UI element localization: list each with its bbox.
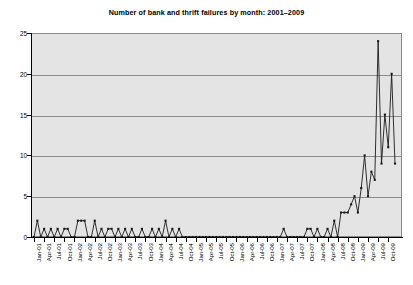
x-tick-label-Jul-03: Jul-03 — [137, 243, 143, 260]
x-tick-label-Apr-09: Apr-09 — [370, 243, 376, 261]
data-point-marker — [100, 228, 102, 230]
data-point-marker — [158, 228, 160, 230]
data-point-marker — [165, 220, 167, 222]
data-point-marker — [299, 236, 301, 237]
x-tick-label-Oct-01: Oct-01 — [67, 243, 73, 261]
x-tick-mark — [135, 238, 136, 242]
x-tick-mark — [297, 238, 298, 242]
chart-title: Number of bank and thrift failures by mo… — [0, 8, 413, 17]
data-point-marker — [391, 73, 393, 75]
x-tick-mark — [95, 238, 96, 242]
series-path — [34, 41, 395, 237]
data-point-marker — [192, 236, 194, 237]
x-tick-label-Jan-09: Jan-09 — [360, 243, 366, 262]
data-point-marker — [232, 236, 234, 237]
data-point-marker — [364, 154, 366, 156]
x-tick-label-Jan-06: Jan-06 — [239, 243, 245, 262]
data-point-marker — [104, 236, 106, 237]
x-tick-mark — [34, 238, 35, 242]
x-tick-mark — [328, 238, 329, 242]
x-axis-labels: Jan-01Apr-01Jul-01Oct-01Jan-02Apr-02Jul-… — [31, 243, 403, 285]
data-point-marker — [333, 220, 335, 222]
data-point-marker — [394, 163, 396, 165]
data-point-marker — [252, 236, 254, 237]
data-point-marker — [225, 236, 227, 237]
x-tick-label-Jan-04: Jan-04 — [158, 243, 164, 262]
data-point-marker — [70, 236, 72, 237]
x-tick-label-Jan-07: Jan-07 — [279, 243, 285, 262]
x-tick-label-Oct-08: Oct-08 — [350, 243, 356, 261]
x-tick-mark — [44, 238, 45, 242]
data-point-marker — [256, 236, 258, 237]
x-tick-mark — [247, 238, 248, 242]
data-point-marker — [40, 236, 42, 237]
data-point-marker — [124, 228, 126, 230]
x-tick-label-Jul-04: Jul-04 — [178, 243, 184, 260]
x-tick-mark — [358, 238, 359, 242]
data-point-marker — [97, 236, 99, 237]
x-tick-label-Oct-05: Oct-05 — [229, 243, 235, 261]
data-point-marker — [310, 228, 312, 230]
data-point-marker — [262, 236, 264, 237]
x-tick-mark — [338, 238, 339, 242]
data-point-marker — [266, 236, 268, 237]
data-point-marker — [77, 220, 79, 222]
y-tick-label-15: 15 — [20, 111, 27, 118]
x-tick-label-Jan-05: Jan-05 — [198, 243, 204, 262]
data-point-marker — [316, 228, 318, 230]
x-tick-label-Jul-01: Jul-01 — [56, 243, 62, 260]
x-tick-label-Apr-05: Apr-05 — [208, 243, 214, 261]
data-point-marker — [279, 236, 281, 237]
data-point-marker — [380, 163, 382, 165]
x-tick-label-Apr-03: Apr-03 — [127, 243, 133, 261]
x-tick-mark — [317, 238, 318, 242]
x-tick-mark — [378, 238, 379, 242]
x-tick-label-Apr-07: Apr-07 — [289, 243, 295, 261]
data-point-marker — [154, 236, 156, 237]
data-point-marker — [340, 211, 342, 213]
y-tick-label-10: 10 — [20, 152, 27, 159]
x-tick-label-Apr-04: Apr-04 — [168, 243, 174, 261]
data-point-marker — [50, 228, 52, 230]
data-point-marker — [367, 195, 369, 197]
data-point-marker — [337, 236, 339, 237]
data-point-marker — [219, 236, 221, 237]
x-tick-mark — [388, 238, 389, 242]
x-tick-label-Apr-01: Apr-01 — [46, 243, 52, 261]
data-point-marker — [117, 228, 119, 230]
x-tick-mark — [348, 238, 349, 242]
data-point-marker — [84, 220, 86, 222]
x-tick-label-Oct-02: Oct-02 — [107, 243, 113, 261]
data-point-marker — [303, 236, 305, 237]
data-point-marker — [53, 236, 55, 237]
data-point-marker — [151, 228, 153, 230]
data-point-marker — [323, 236, 325, 237]
data-point-marker — [185, 236, 187, 237]
data-point-marker — [374, 179, 376, 181]
data-point-marker — [360, 187, 362, 189]
data-point-marker — [377, 40, 379, 42]
data-point-marker — [80, 220, 82, 222]
data-point-marker — [178, 228, 180, 230]
data-point-marker — [313, 236, 315, 237]
data-series-line — [31, 33, 402, 237]
data-point-marker — [33, 236, 35, 237]
data-point-marker — [138, 236, 140, 237]
data-point-marker — [208, 236, 210, 237]
x-tick-mark — [74, 238, 75, 242]
y-tick-label-25: 25 — [20, 30, 27, 37]
data-point-marker — [134, 236, 136, 237]
data-point-marker — [144, 236, 146, 237]
data-point-marker — [347, 211, 349, 213]
x-tick-label-Jan-03: Jan-03 — [117, 243, 123, 262]
x-tick-label-Oct-04: Oct-04 — [188, 243, 194, 261]
x-tick-mark — [307, 238, 308, 242]
x-tick-mark — [105, 238, 106, 242]
data-point-marker — [370, 171, 372, 173]
data-point-marker — [283, 228, 285, 230]
x-tick-label-Jul-09: Jul-09 — [380, 243, 386, 260]
data-point-marker — [168, 236, 170, 237]
data-point-marker — [205, 236, 207, 237]
x-tick-mark — [166, 238, 167, 242]
data-point-marker — [94, 220, 96, 222]
